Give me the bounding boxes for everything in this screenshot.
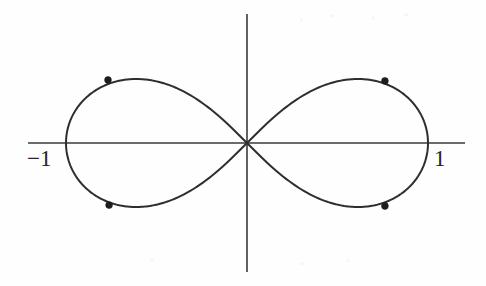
marked-point (382, 203, 389, 210)
plot-canvas (0, 0, 486, 286)
marked-point (106, 202, 113, 209)
x-axis-label-negative-one: −1 (27, 147, 51, 170)
marked-point (382, 78, 389, 85)
marked-point (105, 77, 112, 84)
lemniscate-figure: −1 1 (0, 0, 486, 286)
x-axis-label-positive-one: 1 (434, 147, 446, 170)
